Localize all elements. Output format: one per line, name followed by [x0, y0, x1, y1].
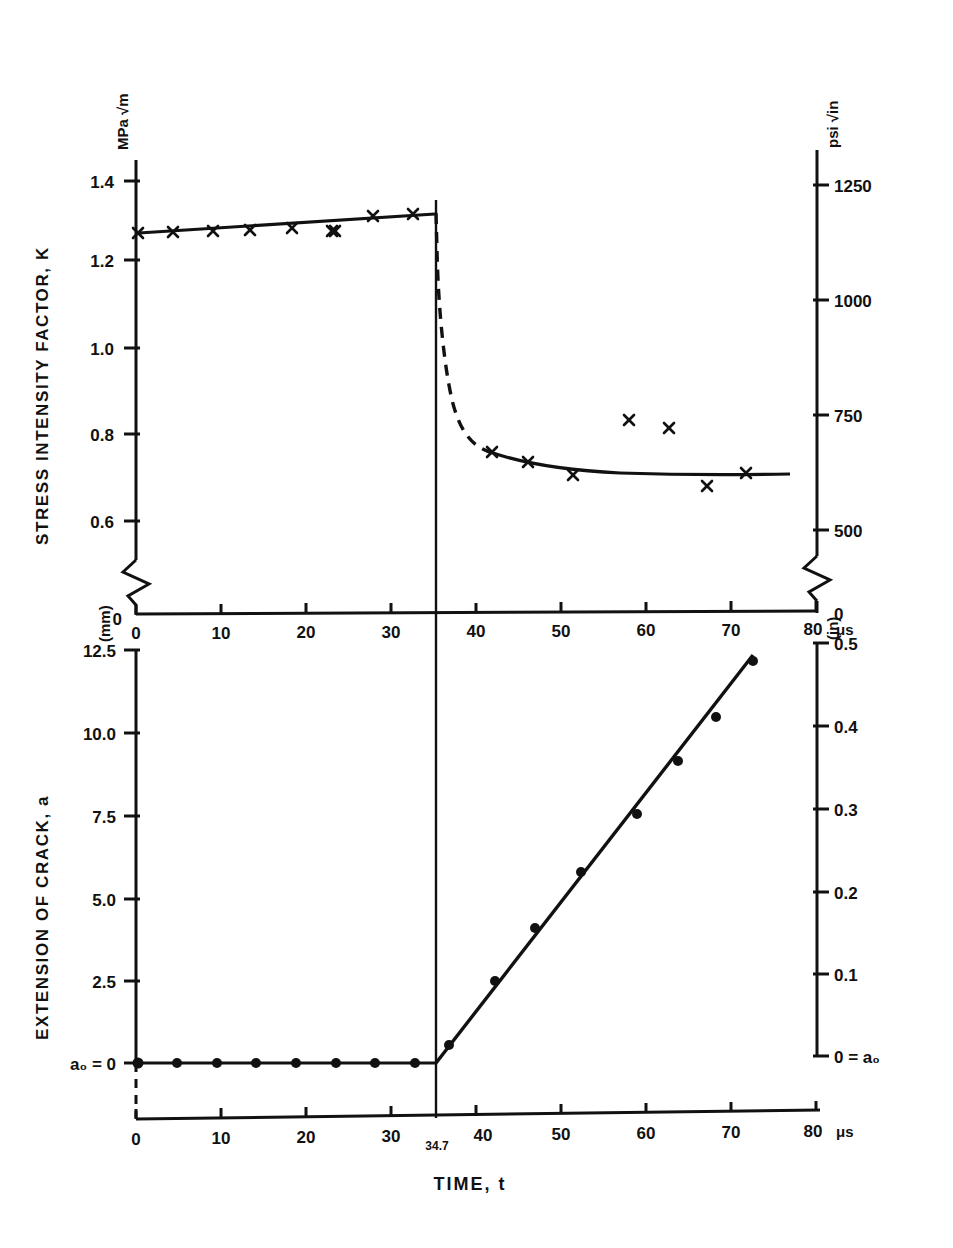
bottom-right-tick-label-4: 0.1 — [834, 966, 858, 985]
bottom-left-tick-label-3: 5.0 — [92, 891, 116, 910]
top-x-tick-label-6: 60 — [637, 621, 656, 640]
chart-canvas: 1.4 1.2 1.0 0.8 0.6 0 1250 1000 750 500 … — [0, 0, 953, 1248]
top-right-tick-label-2: 750 — [834, 407, 862, 426]
top-x-tick-label-8: 80 — [804, 620, 823, 639]
bottom-x-axis — [136, 1110, 820, 1119]
top-left-axis-break-icon — [123, 560, 149, 605]
top-x-tick-label-7: 70 — [722, 621, 741, 640]
top-left-tick-label-5: 0 — [113, 610, 122, 629]
top-x-tick-label-3: 30 — [382, 623, 401, 642]
top-right-ticks — [813, 185, 829, 530]
x-axis-title: TIME, t — [434, 1174, 507, 1194]
top-left-tick-label-4: 0.6 — [90, 513, 114, 532]
bottom-x-tick-label-8: 70 — [722, 1123, 741, 1142]
k-postfracture-markers — [487, 415, 751, 491]
top-left-unit-label: MPa √m — [114, 93, 131, 150]
bottom-panel-y-axis-title: EXTENSION OF CRACK, a — [33, 795, 52, 1040]
top-right-axis-break-icon — [804, 556, 830, 601]
top-panel-y-axis-title: STRESS INTENSITY FACTOR, K — [33, 246, 52, 545]
bottom-left-tick-label-2: 7.5 — [92, 808, 116, 827]
top-x-tick-label-0: 0 — [131, 624, 140, 643]
bottom-x-tick-label-0: 0 — [131, 1130, 140, 1149]
top-left-tick-label-1: 1.2 — [90, 252, 114, 271]
bottom-left-tick-label-0: 12.5 — [83, 642, 116, 661]
bottom-left-ticks — [124, 650, 140, 1063]
bottom-right-tick-label-5: 0 = a₀ — [834, 1048, 880, 1067]
k-drop-dashed-curve — [436, 213, 493, 453]
top-panel: 1.4 1.2 1.0 0.8 0.6 0 1250 1000 750 500 … — [33, 93, 872, 643]
bottom-left-tick-label-5: a₀ = 0 — [70, 1055, 116, 1074]
figure-root: 1.4 1.2 1.0 0.8 0.6 0 1250 1000 750 500 … — [0, 0, 953, 1248]
bottom-panel: 12.5 10.0 7.5 5.0 2.5 a₀ = 0 0.5 0.4 0.3… — [33, 605, 880, 1153]
crack-growth-line — [436, 655, 753, 1063]
bottom-x-tick-label-1: 10 — [212, 1129, 231, 1148]
bottom-x-tick-label-5: 40 — [474, 1126, 493, 1145]
bottom-right-ticks — [813, 643, 829, 1056]
bottom-x-tick-label-2: 20 — [297, 1128, 316, 1147]
bottom-x-tick-label-7: 60 — [637, 1124, 656, 1143]
bottom-right-tick-label-1: 0.4 — [834, 718, 858, 737]
bottom-left-tick-label-1: 10.0 — [83, 725, 116, 744]
top-x-tick-label-1: 10 — [212, 624, 231, 643]
bottom-right-unit-label: (in) — [824, 617, 841, 640]
top-x-tick-label-4: 40 — [467, 622, 486, 641]
bottom-left-tick-label-4: 2.5 — [92, 973, 116, 992]
bottom-left-unit-label: (mm) — [96, 605, 113, 642]
top-right-unit-label: psi √in — [824, 101, 841, 148]
bottom-x-tick-label-6: 50 — [552, 1125, 571, 1144]
bottom-right-tick-label-3: 0.2 — [834, 884, 858, 903]
bottom-x-tick-label-9: 80 — [804, 1122, 823, 1141]
bottom-right-tick-label-2: 0.3 — [834, 801, 858, 820]
top-right-tick-label-1: 1000 — [834, 292, 872, 311]
top-right-tick-label-3: 500 — [834, 522, 862, 541]
fracture-time-tick-label: 34.7 — [425, 1139, 449, 1153]
top-right-tick-label-0: 1250 — [834, 177, 872, 196]
top-left-tick-label-2: 1.0 — [90, 340, 114, 359]
top-left-tick-label-3: 0.8 — [90, 426, 114, 445]
top-left-tick-label-0: 1.4 — [90, 173, 114, 192]
bottom-x-tick-label-3: 30 — [382, 1127, 401, 1146]
top-x-tick-label-5: 50 — [552, 622, 571, 641]
bottom-x-unit-label: μs — [836, 1123, 854, 1140]
top-x-tick-label-2: 20 — [297, 623, 316, 642]
